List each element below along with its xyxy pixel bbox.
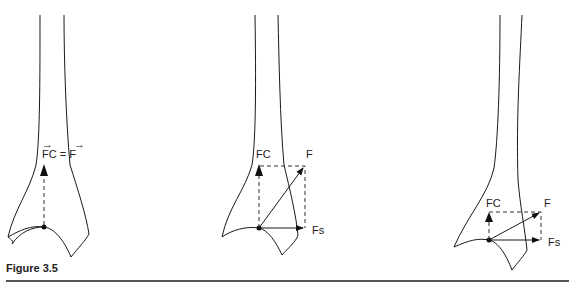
bone-outline-2 bbox=[222, 15, 298, 255]
fs-label-3: Fs bbox=[548, 236, 561, 248]
figure-canvas: FC = F → → FC F Fs FC F Fs bbox=[0, 0, 577, 287]
bone-outline-1 bbox=[8, 15, 89, 257]
f-vector-2 bbox=[259, 168, 303, 228]
panel-1: FC = F → → bbox=[8, 15, 89, 257]
fc-label-2: FC bbox=[256, 148, 271, 160]
f-vector-3 bbox=[489, 213, 539, 240]
fc-arrowhead-1 bbox=[40, 164, 48, 176]
fc-label-3: FC bbox=[486, 197, 501, 209]
panel-2: FC F Fs bbox=[222, 15, 325, 255]
f-label-2: F bbox=[306, 148, 313, 160]
joint-point-1 bbox=[42, 225, 47, 230]
f-label-3: F bbox=[544, 197, 551, 209]
vector-arrow-glyph: → bbox=[74, 138, 85, 150]
bone-outline-3 bbox=[454, 15, 527, 270]
figure-caption: Figure 3.5 bbox=[6, 262, 58, 274]
panel-3: FC F Fs bbox=[454, 15, 561, 270]
fc-arrowhead-3 bbox=[485, 212, 493, 222]
vector-arrow-glyph: → bbox=[42, 138, 53, 150]
fs-label-2: Fs bbox=[312, 224, 325, 236]
caption-rule bbox=[6, 280, 569, 282]
